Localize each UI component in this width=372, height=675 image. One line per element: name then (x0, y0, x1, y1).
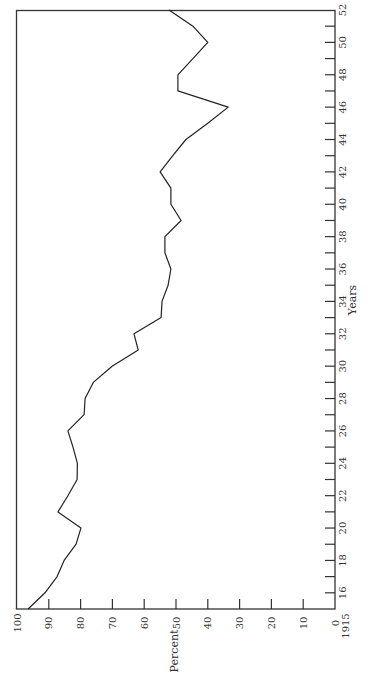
year-tick-label: 46 (337, 101, 348, 114)
data-line (28, 10, 228, 609)
percent-tick-label: 20 (266, 617, 277, 630)
year-tick-label: 18 (337, 554, 348, 567)
year-tick-label: 48 (337, 68, 348, 81)
year-tick-label: 36 (337, 263, 348, 276)
year-tick-label: 20 (337, 522, 348, 535)
year-tick-label: 26 (337, 425, 348, 438)
year-tick-label: 30 (337, 360, 348, 373)
percent-tick-label: 100 (12, 613, 23, 632)
year-tick-label: 50 (337, 36, 348, 49)
x-axis-label: Years (346, 285, 359, 317)
year-tick-label: 24 (337, 457, 348, 470)
year-tick-label: 42 (337, 166, 348, 179)
percent-tick-label: 10 (298, 617, 309, 630)
year-axis-ticks: 1915161820222426283032343638404244464850… (325, 4, 351, 639)
percent-tick-label: 80 (75, 617, 86, 630)
y-axis-label: Percent (168, 629, 181, 672)
percent-tick-label: 60 (139, 617, 150, 630)
year-tick-label: 1915 (340, 613, 351, 638)
percent-axis-ticks: 1009080706050403020100 (12, 599, 341, 633)
percent-tick-label: 0 (330, 620, 341, 626)
plot-frame (17, 11, 336, 610)
year-tick-label: 38 (337, 230, 348, 243)
year-tick-label: 44 (337, 133, 348, 146)
percent-tick-label: 40 (202, 617, 213, 630)
year-tick-label: 28 (337, 392, 348, 405)
year-tick-label: 52 (337, 4, 348, 17)
percent-tick-label: 30 (234, 617, 245, 630)
percent-tick-label: 90 (43, 617, 54, 630)
year-tick-label: 22 (337, 489, 348, 502)
year-tick-label: 32 (337, 327, 348, 340)
percent-tick-label: 50 (171, 617, 182, 630)
year-tick-label: 40 (337, 198, 348, 211)
year-tick-label: 16 (337, 586, 348, 599)
line-chart: 1915161820222426283032343638404244464850… (0, 0, 372, 675)
percent-tick-label: 70 (107, 617, 118, 630)
